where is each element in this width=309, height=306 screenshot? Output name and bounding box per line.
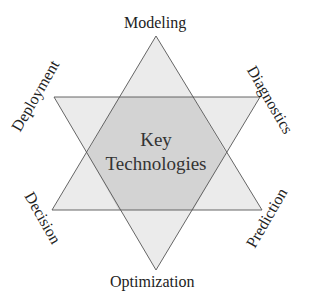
label-modeling: Modeling [124,15,186,31]
center-label-line2: Technologies [96,152,216,176]
center-label: Key Technologies [96,128,216,176]
center-label-line1: Key [96,128,216,152]
key-technologies-diagram: Key Technologies Modeling Diagnostics Pr… [0,0,309,306]
label-optimization: Optimization [110,274,194,290]
